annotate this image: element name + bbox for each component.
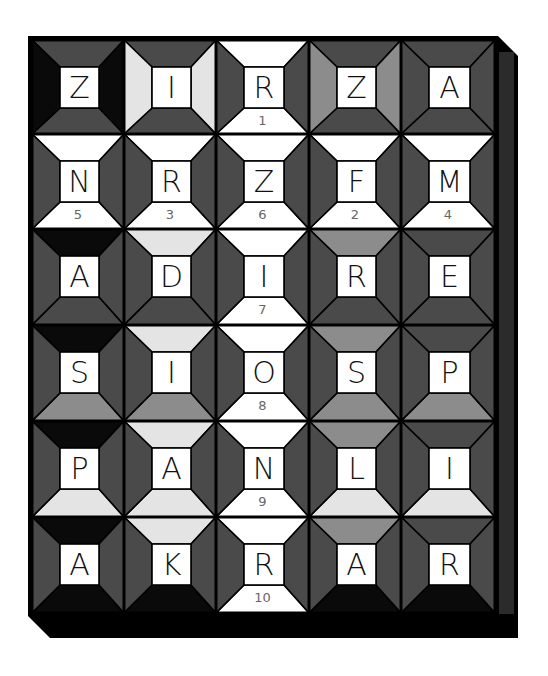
grid-cell[interactable]: D (124, 229, 216, 325)
cell-letter: N (60, 161, 99, 202)
cell-letter: S (60, 352, 99, 393)
grid-cell[interactable]: I (124, 325, 216, 421)
grid-cell[interactable]: E (401, 229, 495, 325)
cell-letter: R (429, 544, 470, 585)
grid-cell[interactable]: A (309, 517, 401, 613)
cell-number: 5 (32, 208, 124, 222)
cell-number: 8 (216, 399, 309, 413)
cell-number: 6 (216, 208, 309, 222)
grid-cell[interactable]: F2 (309, 134, 401, 229)
grid-cell[interactable]: I7 (216, 229, 309, 325)
cell-number: 4 (401, 208, 495, 222)
cell-letter: R (244, 544, 284, 585)
grid-cell[interactable]: P (32, 421, 124, 517)
quilt-puzzle-board: ZIR1ZAN5R3Z6F2M4ADI7RESIO8SPPAN9LIAKR10A… (0, 0, 548, 676)
grid-cell[interactable]: S (309, 325, 401, 421)
cell-letter: P (60, 448, 99, 489)
cell-letter: A (60, 544, 99, 585)
cell-letter: A (152, 448, 191, 489)
grid-cell[interactable]: N9 (216, 421, 309, 517)
cell-letter: R (337, 256, 376, 297)
cell-letter: A (337, 544, 376, 585)
cell-letter: A (60, 256, 99, 297)
cell-letter: Z (337, 67, 376, 108)
grid-cell[interactable]: N5 (32, 134, 124, 229)
cell-number: 2 (309, 208, 401, 222)
cell-letter: R (244, 67, 284, 108)
grid-cell[interactable]: R10 (216, 517, 309, 613)
grid-cell[interactable]: A (124, 421, 216, 517)
grid-cell[interactable]: Z (32, 40, 124, 134)
cell-letter: S (337, 352, 376, 393)
grid-cell[interactable]: O8 (216, 325, 309, 421)
cell-letter: Z (60, 67, 99, 108)
grid-cell[interactable]: R (309, 229, 401, 325)
grid-cell[interactable]: R (401, 517, 495, 613)
grid-cell[interactable]: M4 (401, 134, 495, 229)
grid-cell[interactable]: P (401, 325, 495, 421)
grid-cell[interactable]: I (401, 421, 495, 517)
grid-cell[interactable]: R3 (124, 134, 216, 229)
cell-letter: I (152, 352, 191, 393)
cell-letter: E (429, 256, 470, 297)
cell-letter: P (429, 352, 470, 393)
cell-letter: Z (244, 161, 284, 202)
grid-cell[interactable]: Z6 (216, 134, 309, 229)
cell-letter: L (337, 448, 376, 489)
grid-cell[interactable]: Z (309, 40, 401, 134)
cell-number: 3 (124, 208, 216, 222)
board-right-side-panel (499, 52, 514, 614)
cell-letter: K (152, 544, 191, 585)
cell-letter: I (152, 67, 191, 108)
cell-letter: M (429, 161, 470, 202)
cell-letter: I (429, 448, 470, 489)
grid-cell[interactable]: I (124, 40, 216, 134)
cell-letter: R (152, 161, 191, 202)
cell-number: 1 (216, 114, 309, 128)
letter-grid: ZIR1ZAN5R3Z6F2M4ADI7RESIO8SPPAN9LIAKR10A… (32, 40, 495, 613)
grid-cell[interactable]: S (32, 325, 124, 421)
cell-letter: O (244, 352, 284, 393)
grid-cell[interactable]: A (401, 40, 495, 134)
cell-number: 7 (216, 303, 309, 317)
grid-cell[interactable]: K (124, 517, 216, 613)
cell-letter: F (337, 161, 376, 202)
cell-letter: D (152, 256, 191, 297)
cell-letter: N (244, 448, 284, 489)
cell-letter: I (244, 256, 284, 297)
grid-cell[interactable]: A (32, 229, 124, 325)
grid-cell[interactable]: A (32, 517, 124, 613)
cell-number: 10 (216, 591, 309, 605)
cell-letter: A (429, 67, 470, 108)
grid-cell[interactable]: R1 (216, 40, 309, 134)
grid-cell[interactable]: L (309, 421, 401, 517)
cell-number: 9 (216, 495, 309, 509)
